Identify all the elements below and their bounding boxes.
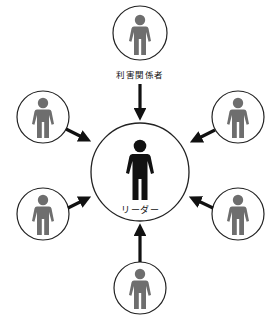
arrow-upper-right (195, 130, 215, 140)
stakeholder-diagram: 利害関係者 リーダー (0, 0, 280, 328)
arrow-lower-right (194, 199, 213, 208)
stakeholder-node-lower-left (17, 188, 69, 240)
stakeholder-node-upper-right (212, 91, 264, 143)
stakeholder-node-bottom (114, 262, 166, 314)
stakeholder-node-lower-right (212, 188, 264, 240)
leader-label: リーダー (121, 203, 159, 216)
stakeholder-label: 利害関係者 (116, 68, 164, 80)
stakeholder-node-upper-left (17, 91, 69, 143)
arrow-upper-left (66, 129, 86, 139)
arrow-lower-left (68, 199, 86, 208)
diagram-canvas (0, 0, 280, 328)
stakeholder-node-top (113, 6, 167, 60)
